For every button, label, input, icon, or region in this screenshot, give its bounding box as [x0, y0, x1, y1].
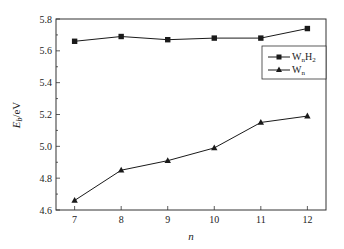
line-chart: 4.64.85.05.25.45.65.8 789101112 n Eb/eV … [0, 0, 344, 249]
square-marker-icon [165, 37, 170, 42]
square-marker-icon [212, 35, 217, 40]
triangle-marker-icon [71, 197, 77, 203]
square-marker-icon [118, 34, 123, 39]
x-axis-title: n [188, 230, 194, 242]
x-tick-label: 9 [165, 214, 170, 225]
x-tick-label: 12 [302, 214, 312, 225]
triangle-marker-icon [304, 113, 310, 119]
x-tick-label: 10 [209, 214, 219, 225]
series-line [75, 29, 308, 42]
series-line [75, 116, 308, 200]
y-tick-label: 4.8 [40, 173, 53, 184]
legend: WnH2 Wn [262, 46, 326, 79]
y-tick-label: 5.6 [40, 45, 53, 56]
y-tick-label: 4.6 [40, 205, 53, 216]
x-axis: 789101112 [72, 206, 312, 225]
series-wn [71, 113, 310, 203]
y-axis: 4.64.85.05.25.45.65.8 [40, 14, 61, 216]
series-wnh2 [72, 26, 310, 44]
y-axis-title: Eb/eV [10, 102, 24, 130]
square-marker-icon [258, 35, 263, 40]
triangle-marker-icon [211, 144, 217, 150]
y-tick-label: 5.4 [40, 77, 53, 88]
square-marker-icon [277, 55, 282, 60]
square-marker-icon [72, 39, 77, 44]
y-tick-label: 5.8 [40, 14, 53, 25]
y-axis-title-unit: /eV [10, 102, 22, 118]
x-tick-label: 8 [119, 214, 124, 225]
y-tick-label: 5.2 [40, 109, 53, 120]
x-tick-label: 11 [256, 214, 266, 225]
square-marker-icon [305, 26, 310, 31]
y-tick-label: 5.0 [40, 141, 53, 152]
x-tick-label: 7 [72, 214, 77, 225]
